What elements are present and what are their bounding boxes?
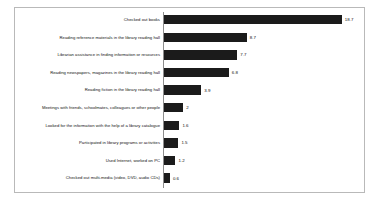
bar-value-label: 18.7: [345, 17, 354, 22]
bar-row: Participated in library programs or acti…: [15, 134, 364, 152]
bar-category-label: Meetings with friends, schoolmates, coll…: [15, 105, 160, 110]
bar-value-label: 0.6: [173, 176, 179, 181]
bar-value-label: 1.2: [179, 158, 185, 163]
bar-row: Checked out multi-media (video, DVD, aud…: [15, 169, 364, 187]
bar-rect: [164, 50, 237, 59]
bar-rect: [164, 68, 229, 77]
bar-track: 6.8: [164, 64, 238, 82]
bar-value-label: 6.8: [232, 70, 238, 75]
bar-track: 1.5: [164, 134, 188, 152]
bar-category-label: Reading newspapers, magazines in the lib…: [15, 70, 160, 75]
bar-value-label: 7.7: [240, 52, 246, 57]
bar-value-label: 1.5: [181, 140, 187, 145]
bar-value-label: 1.6: [182, 123, 188, 128]
bar-row: Looked for the information with the help…: [15, 117, 364, 135]
bar-value-label: 3.9: [204, 88, 210, 93]
bar-rect: [164, 15, 342, 24]
bar-category-label: Reading reference materials in the libra…: [15, 35, 160, 40]
bar-row: Reading reference materials in the libra…: [15, 29, 364, 47]
bar-rect: [164, 33, 247, 42]
bar-value-label: 8.7: [250, 35, 256, 40]
bar-row: Used Internet, worked on PC 1.2: [15, 152, 364, 170]
bar-track: 1.6: [164, 117, 188, 135]
bar-category-label: Checked out multi-media (video, DVD, aud…: [15, 175, 160, 180]
bar-track: 0.6: [164, 169, 179, 187]
plot-area: Checked out books 18.7 Reading reference…: [15, 8, 364, 192]
bar-rect: [164, 121, 179, 130]
bar-category-label: Looked for the information with the help…: [15, 123, 160, 128]
bar-rect: [164, 138, 178, 147]
bar-row: Reading newspapers, magazines in the lib…: [15, 64, 364, 82]
bar-category-label: Checked out books: [15, 17, 160, 22]
bar-value-label: 2: [186, 105, 188, 110]
bar-row: Reading fiction in the library reading h…: [15, 81, 364, 99]
bar-rect: [164, 156, 175, 165]
bar-rect: [164, 103, 183, 112]
bar-track: 7.7: [164, 46, 246, 64]
bar-track: 3.9: [164, 81, 210, 99]
bar-row: Checked out books 18.7: [15, 11, 364, 29]
bar-track: 18.7: [164, 11, 353, 29]
bar-category-label: Used Internet, worked on PC: [15, 158, 160, 163]
bar-rect: [164, 85, 201, 94]
bar-track: 2: [164, 99, 189, 117]
bar-chart-figure: Checked out books 18.7 Reading reference…: [0, 0, 379, 207]
bar-category-label: Participated in library programs or acti…: [15, 140, 160, 145]
bar-row: Librarian assistance in finding informat…: [15, 46, 364, 64]
bar-track: 8.7: [164, 29, 256, 47]
bar-track: 1.2: [164, 152, 185, 170]
bar-rect: [164, 173, 170, 182]
bar-category-label: Librarian assistance in finding informat…: [15, 52, 160, 57]
bar-category-label: Reading fiction in the library reading h…: [15, 87, 160, 92]
bar-row: Meetings with friends, schoolmates, coll…: [15, 99, 364, 117]
